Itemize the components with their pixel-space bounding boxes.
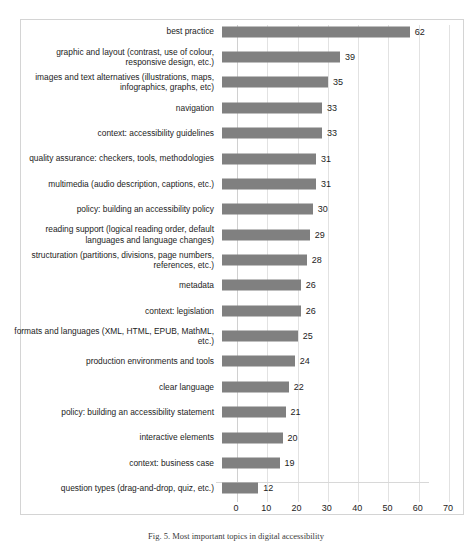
bar	[222, 128, 322, 139]
bar-value-label: 28	[312, 255, 322, 265]
bar-value-label: 31	[321, 154, 331, 164]
bar	[222, 229, 310, 240]
bar-track: 26	[218, 298, 468, 323]
x-axis-tick-labels: 010203040506070	[0, 503, 472, 517]
category-label: context: accessibility guidelines	[0, 128, 218, 138]
bar-value-label: 39	[345, 52, 355, 62]
bar-row: policy: building an accessibility statem…	[0, 400, 472, 425]
bar-row: images and text alternatives (illustrati…	[0, 70, 472, 95]
bar	[222, 254, 307, 265]
bar-value-label: 33	[327, 103, 337, 113]
category-label: metadata	[0, 280, 218, 290]
bar-value-label: 25	[303, 331, 313, 341]
bar	[222, 331, 298, 342]
bar	[222, 280, 301, 291]
x-tick-50: 50	[382, 503, 392, 513]
bar	[222, 26, 410, 37]
category-label: multimedia (audio description, captions,…	[0, 179, 218, 189]
bar-value-label: 20	[288, 433, 298, 443]
bar-track: 25	[218, 323, 468, 348]
x-tick-60: 60	[413, 503, 423, 513]
bar-track: 21	[218, 400, 468, 425]
bar-value-label: 35	[333, 77, 343, 87]
bar-track: 26	[218, 273, 468, 298]
bar-row: context: business case19	[0, 450, 472, 475]
category-label: graphic and layout (contrast, use of col…	[0, 47, 218, 68]
category-label: question types (drag-and-drop, quiz, etc…	[0, 483, 218, 493]
bar-row: graphic and layout (contrast, use of col…	[0, 44, 472, 69]
bar-value-label: 33	[327, 128, 337, 138]
category-label: navigation	[0, 103, 218, 113]
bar-value-label: 26	[306, 280, 316, 290]
bar	[222, 77, 328, 88]
bar-track: 22	[218, 374, 468, 399]
bar	[222, 178, 316, 189]
bar-track: 28	[218, 247, 468, 272]
bar-row: formats and languages (XML, HTML, EPUB, …	[0, 323, 472, 348]
category-label: production environments and tools	[0, 356, 218, 366]
bar-track: 19	[218, 450, 468, 475]
bar-row: production environments and tools24	[0, 349, 472, 374]
bar-track: 30	[218, 197, 468, 222]
bar	[222, 52, 340, 63]
bar-track: 35	[218, 70, 468, 95]
bar-row: metadata26	[0, 273, 472, 298]
bar-value-label: 30	[318, 204, 328, 214]
bar	[222, 153, 316, 164]
x-tick-30: 30	[322, 503, 332, 513]
bar	[222, 102, 322, 113]
bar	[222, 204, 313, 215]
bar-track: 31	[218, 146, 468, 171]
bar-value-label: 21	[291, 407, 301, 417]
bar-row: question types (drag-and-drop, quiz, etc…	[0, 476, 472, 501]
x-tick-70: 70	[443, 503, 453, 513]
category-label: structuration (partitions, divisions, pa…	[0, 250, 218, 271]
category-label: context: legislation	[0, 306, 218, 316]
bar	[222, 356, 295, 367]
bar-row: policy: building an accessibility policy…	[0, 197, 472, 222]
bar-value-label: 12	[263, 483, 273, 493]
bar-track: 12	[218, 476, 468, 501]
bar	[222, 407, 286, 418]
bar-track: 39	[218, 44, 468, 69]
category-label: reading support (logical reading order, …	[0, 224, 218, 245]
bar-track: 24	[218, 349, 468, 374]
bar-row: best practice62	[0, 19, 472, 44]
bar-row: interactive elements20	[0, 425, 472, 450]
bar-value-label: 26	[306, 306, 316, 316]
bar-row: clear language22	[0, 374, 472, 399]
bar-value-label: 24	[300, 356, 310, 366]
figure-caption: Fig. 5. Most important topics in digital…	[0, 531, 472, 541]
category-label: context: business case	[0, 458, 218, 468]
bar-rows: best practice62graphic and layout (contr…	[0, 19, 472, 501]
bar-value-label: 62	[415, 27, 425, 37]
category-label: images and text alternatives (illustrati…	[0, 72, 218, 93]
bar-row: multimedia (audio description, captions,…	[0, 171, 472, 196]
bar-row: structuration (partitions, divisions, pa…	[0, 247, 472, 272]
bar-row: context: legislation26	[0, 298, 472, 323]
bar	[222, 381, 289, 392]
bar	[222, 483, 258, 494]
category-label: policy: building an accessibility policy	[0, 204, 218, 214]
bar-track: 31	[218, 171, 468, 196]
category-label: policy: building an accessibility statem…	[0, 407, 218, 417]
bar-row: navigation33	[0, 95, 472, 120]
bar-row: reading support (logical reading order, …	[0, 222, 472, 247]
bar-row: context: accessibility guidelines33	[0, 120, 472, 145]
bar-track: 20	[218, 425, 468, 450]
bar-value-label: 29	[315, 230, 325, 240]
bar-track: 29	[218, 222, 468, 247]
category-label: clear language	[0, 382, 218, 392]
bar-value-label: 19	[285, 458, 295, 468]
bar-value-label: 31	[321, 179, 331, 189]
figure-container: best practice62graphic and layout (contr…	[0, 0, 472, 544]
bar-value-label: 22	[294, 382, 304, 392]
x-tick-0: 0	[233, 503, 238, 513]
category-label: interactive elements	[0, 432, 218, 442]
bar-track: 33	[218, 120, 468, 145]
bar	[222, 305, 301, 316]
bar-row: quality assurance: checkers, tools, meth…	[0, 146, 472, 171]
category-label: formats and languages (XML, HTML, EPUB, …	[0, 326, 218, 347]
x-tick-40: 40	[352, 503, 362, 513]
bar-track: 62	[218, 19, 468, 44]
